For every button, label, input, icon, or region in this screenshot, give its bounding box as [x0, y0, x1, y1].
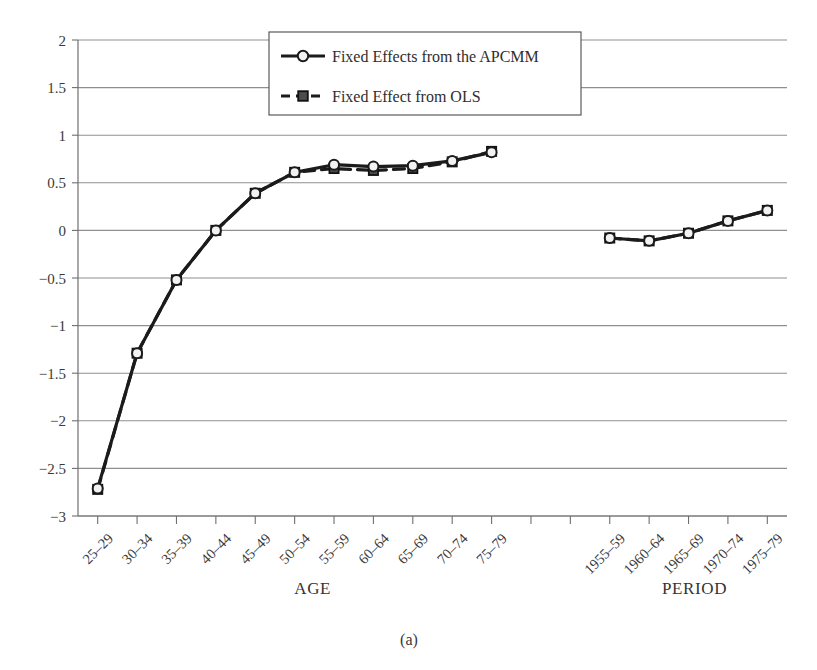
series-fixed-effects-apcmm — [93, 147, 773, 493]
figure-panel: 21.510.50−0.5−1−1.5−2−2.5−3 25–2930–3435… — [0, 0, 817, 670]
x-axis-tick-label-age: 55–59 — [316, 530, 353, 567]
data-point-marker-open-circle — [684, 228, 694, 238]
chart-legend: Fixed Effects from the APCMMFixed Effect… — [269, 32, 581, 115]
legend-label: Fixed Effects from the APCMM — [332, 48, 539, 65]
data-point-marker-open-circle — [408, 161, 418, 171]
data-point-marker-open-circle — [329, 160, 339, 170]
x-axis-tick-label-age: 60–64 — [355, 530, 392, 567]
figure-caption: (a) — [400, 631, 418, 649]
x-axis-tick-labels-group: 25–2930–3435–3940–4445–4950–5455–5960–64… — [79, 530, 786, 578]
x-axis-tick-label-period: 1960–64 — [620, 530, 668, 578]
y-axis-tick-label: −3 — [50, 509, 66, 525]
data-point-marker-open-circle — [723, 216, 733, 226]
data-point-marker-open-circle — [605, 233, 615, 243]
age-line — [98, 152, 492, 488]
data-point-marker-open-circle — [644, 236, 654, 246]
data-point-marker-open-circle — [250, 188, 260, 198]
x-axis-tick-label-age: 75–79 — [473, 530, 510, 567]
data-point-marker-open-circle — [93, 483, 103, 493]
legend-marker-open-circle — [298, 51, 308, 61]
x-axis-tick-label-period: 1970–74 — [699, 530, 747, 578]
y-axis-ticks-group — [72, 40, 78, 516]
data-point-marker-open-circle — [368, 162, 378, 172]
series-fixed-effect-ols — [93, 147, 772, 494]
y-axis-tick-label: 1 — [59, 128, 67, 144]
y-axis-tick-label: −0.5 — [39, 271, 66, 287]
data-point-marker-open-circle — [447, 156, 457, 166]
x-axis-tick-label-period: 1965–69 — [660, 530, 707, 577]
data-point-marker-open-circle — [132, 348, 142, 358]
data-point-marker-open-circle — [211, 225, 221, 235]
x-axis-tick-label-age: 50–54 — [276, 530, 313, 567]
x-axis-tick-label-age: 35–39 — [158, 530, 195, 567]
y-axis-tick-labels-group: 21.510.50−0.5−1−1.5−2−2.5−3 — [39, 33, 66, 525]
axis-title-age: AGE — [294, 579, 331, 598]
x-axis-tick-label-period: 1975–79 — [739, 530, 786, 577]
y-axis-tick-label: 0.5 — [47, 175, 66, 191]
chart-svg: 21.510.50−0.5−1−1.5−2−2.5−3 25–2930–3435… — [0, 0, 817, 670]
x-axis-tick-label-age: 25–29 — [79, 530, 116, 567]
x-axis-tick-label-age: 65–69 — [394, 530, 431, 567]
x-axis-ticks-group — [98, 516, 768, 524]
y-axis-tick-label: 1.5 — [47, 80, 66, 96]
y-axis-tick-label: 2 — [59, 33, 67, 49]
x-axis-tick-label-age: 30–34 — [119, 530, 156, 567]
x-axis-tick-label-age: 45–49 — [237, 530, 274, 567]
y-axis-tick-label: −2 — [50, 413, 66, 429]
x-axis-tick-label-age: 40–44 — [197, 530, 234, 567]
age-line — [98, 151, 492, 489]
legend-marker-filled-square — [298, 91, 308, 101]
y-axis-tick-label: 0 — [59, 223, 67, 239]
axis-title-period: PERIOD — [662, 579, 727, 598]
y-axis-tick-label: −2.5 — [39, 461, 66, 477]
legend-label: Fixed Effect from OLS — [332, 88, 481, 105]
y-axis-tick-label: −1 — [50, 318, 66, 334]
x-axis-tick-label-age: 70–74 — [434, 530, 471, 567]
x-axis-tick-label-period: 1955–59 — [581, 530, 628, 577]
data-point-marker-open-circle — [487, 147, 497, 157]
y-axis-tick-label: −1.5 — [39, 366, 66, 382]
data-point-marker-open-circle — [762, 205, 772, 215]
data-point-marker-open-circle — [171, 275, 181, 285]
data-point-marker-open-circle — [290, 167, 300, 177]
